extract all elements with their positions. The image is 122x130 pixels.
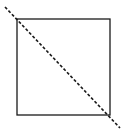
diagram-canvas (0, 0, 122, 130)
dashed-diagonal-line (5, 7, 120, 128)
